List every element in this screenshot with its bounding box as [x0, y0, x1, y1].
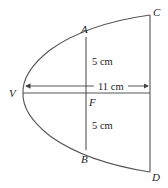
label-a: A — [80, 23, 88, 35]
label-b: B — [81, 153, 88, 165]
label-d: D — [151, 171, 160, 183]
label-v: V — [9, 87, 17, 99]
label-lower-5cm: 5 cm — [92, 120, 113, 131]
label-depth-11cm: 11 cm — [98, 81, 124, 92]
label-c: C — [153, 6, 161, 18]
parabola-diagram: C A V F B D 5 cm 11 cm 5 cm — [0, 0, 168, 188]
label-f: F — [88, 96, 96, 108]
label-upper-5cm: 5 cm — [92, 56, 113, 67]
